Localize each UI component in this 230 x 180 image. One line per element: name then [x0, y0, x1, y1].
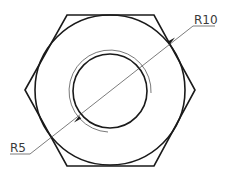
outer-circle: [35, 15, 185, 165]
hex-nut-drawing: R10 R5: [0, 0, 230, 180]
hexagon-outline: [25, 15, 195, 166]
r5-dimension-label: R5: [10, 141, 26, 155]
dimension-leader-line: [30, 26, 193, 154]
r10-dimension-label: R10: [194, 13, 218, 27]
